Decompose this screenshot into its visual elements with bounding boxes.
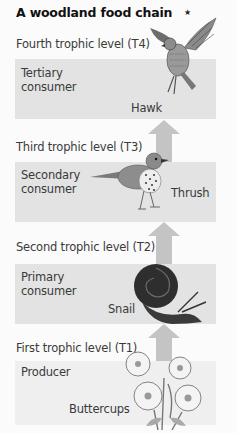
thrush-illustration: [88, 145, 184, 213]
role-line: consumer: [21, 80, 76, 94]
role-line: Primary: [21, 270, 76, 284]
role-t4: Tertiary consumer: [21, 66, 76, 94]
role-line: Producer: [21, 365, 70, 379]
snail-illustration: [128, 262, 210, 328]
role-t3: Secondary consumer: [21, 168, 80, 196]
buttercups-illustration: [124, 348, 208, 430]
level-label-t4: Fourth trophic level (T4): [16, 37, 150, 51]
level-label-t2: Second trophic level (T2): [16, 240, 155, 254]
role-t1: Producer: [21, 365, 70, 379]
role-line: consumer: [21, 284, 76, 298]
role-t2: Primary consumer: [21, 270, 76, 298]
role-line: consumer: [21, 182, 80, 196]
level-label-t1: First trophic level (T1): [16, 341, 137, 355]
role-line: Tertiary: [21, 66, 76, 80]
organism-label-buttercups: Buttercups: [69, 402, 130, 416]
hawk-illustration: [140, 14, 220, 106]
role-line: Secondary: [21, 168, 80, 182]
